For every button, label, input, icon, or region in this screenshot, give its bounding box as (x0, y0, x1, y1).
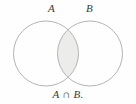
set-b-label: B (86, 3, 93, 14)
set-a-label: A (48, 3, 55, 14)
venn-diagram-figure: A B A ∩ B. (0, 0, 136, 104)
figure-caption: A ∩ B. (0, 88, 136, 100)
